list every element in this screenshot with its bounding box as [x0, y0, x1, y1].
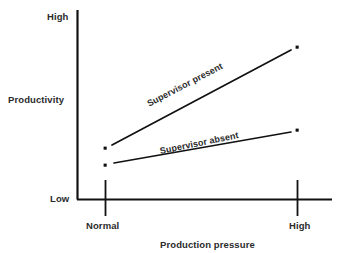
chart-plot-area	[0, 0, 340, 253]
data-point-absent-high	[296, 129, 299, 132]
y-axis-bottom-label: Low	[50, 194, 69, 204]
productivity-pressure-chart: High Productivity Low Normal High Produc…	[0, 0, 340, 253]
x-axis-title: Production pressure	[160, 240, 255, 250]
data-point-present-normal	[104, 147, 107, 150]
series-line-supervisor-present	[112, 50, 291, 145]
data-point-present-high	[296, 46, 299, 49]
x-tick-label-high: High	[289, 221, 311, 231]
y-axis-title: Productivity	[8, 95, 64, 105]
data-point-absent-normal	[104, 164, 107, 167]
x-tick-label-normal: Normal	[86, 221, 119, 231]
y-axis-top-label: High	[47, 12, 69, 22]
